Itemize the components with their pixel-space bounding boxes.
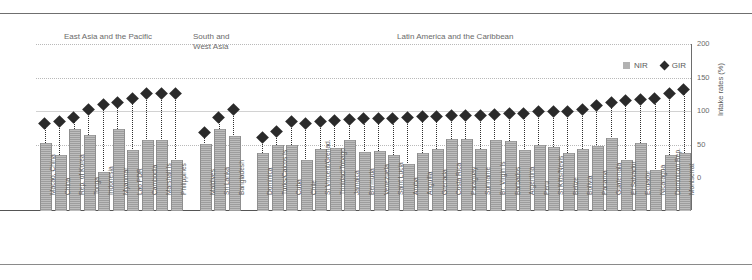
gir-diamond-marker[interactable] [140,88,153,101]
y-tick-50: 50 [697,141,705,149]
x-axis-tick-label: Lao PDR [136,168,143,195]
y-tick-150: 150 [697,74,710,82]
gir-diamond-marker[interactable] [634,93,647,106]
y-tick-100: 100 [697,107,710,115]
x-axis-tick-label: Dominica [266,168,273,195]
gir-diamond-marker[interactable] [459,109,472,122]
gir-diamond-marker[interactable] [328,114,341,127]
gir-diamond-marker[interactable] [126,92,139,105]
x-axis-tick-label: Aruba [412,177,419,195]
gir-diamond-marker[interactable] [213,111,226,124]
x-axis-tick-label: St Kitts/Nevis [557,156,564,195]
x-axis-tick-label: Suriname [484,167,491,195]
gir-diamond-marker[interactable] [518,107,531,120]
gir-diamond-marker[interactable] [590,99,603,112]
x-axis-tick-label: Maldives [209,169,216,195]
x-axis-tick-label: Costa Rica [455,163,462,195]
y-tick-200: 200 [697,40,710,48]
gir-diamond-marker[interactable] [285,115,298,128]
x-axis-tick-label: El Salvador [630,161,637,195]
gir-diamond-marker[interactable] [343,113,356,126]
gir-diamond-marker[interactable] [358,112,371,125]
gir-diamond-marker[interactable] [619,94,632,107]
y-axis-label: Intake rates (%) [716,63,725,116]
x-axis-tick-label: Jamaica [353,170,360,195]
gir-diamond-marker[interactable] [68,111,81,124]
gir-diamond-marker[interactable] [169,88,182,101]
x-axis-tick-label: Br. Virgin Is [499,161,506,195]
gir-diamond-marker[interactable] [430,110,443,123]
x-axis-tick-label: Guatemala [615,163,622,195]
x-axis-tick-label: Tonga [93,177,100,195]
x-axis-tick-label: Philippines [180,163,187,195]
x-axis-tick-label: Cambodia [151,165,158,195]
x-axis-tick-label: Montserrat [688,163,695,195]
x-axis-tick-label: Anguilla [426,172,433,195]
x-axis-tick-label: Belize [572,177,579,195]
gir-diamond-marker[interactable] [198,126,211,139]
x-axis-tick-label: Sri Lanka [223,167,230,195]
chart-page: East Asia and the Pacific South and West… [0,0,752,280]
gir-diamond-marker[interactable] [488,108,501,121]
x-axis-tick-label: Panama [601,170,608,195]
gir-diamond-marker[interactable] [53,115,66,128]
x-axis-labels: Macao, ChinaChinaRep. of KoreaTongaIndon… [36,195,691,280]
gir-diamond-marker[interactable] [387,112,400,125]
x-axis-tick-label: Cuba [295,179,302,195]
x-axis-tick-label: Rep. of Korea [78,154,85,195]
gir-diamond-marker[interactable] [227,103,240,116]
gir-diamond-marker[interactable] [111,96,124,109]
gir-diamond-marker[interactable] [416,110,429,123]
gir-diamond-marker[interactable] [401,111,414,124]
x-axis-tick-label: Macao, China [49,154,56,195]
gir-diamond-marker[interactable] [576,103,589,116]
x-axis-tick-label: Bolivia [586,176,593,195]
gir-diamond-marker[interactable] [503,107,516,120]
x-axis-tick-label: Venezuela [383,164,390,195]
x-axis-tick-label: Chile [310,180,317,195]
gir-diamond-marker[interactable] [256,132,269,145]
gir-diamond-marker[interactable] [649,92,662,105]
gir-diamond-marker[interactable] [155,88,168,101]
x-axis-tick-label: Peru [543,181,550,195]
x-axis-tick-label: Marshall Is [165,163,172,195]
x-axis-tick-label: China [64,178,71,195]
group-header-latin-america-caribbean: Latin America and the Caribbean [397,32,514,42]
gir-diamond-marker[interactable] [270,125,283,138]
gir-diamond-marker[interactable] [372,112,385,125]
gir-diamond-marker[interactable] [605,96,618,109]
x-axis-tick-label: Nicaragua [659,165,666,195]
x-axis-tick-label: Bermuda [368,168,375,195]
group-header-east-asia-pacific: East Asia and the Pacific [64,32,152,42]
x-axis-tick-label: Barbados [514,167,521,195]
x-axis-tick-label: Trinidad/Tobago [339,148,346,195]
gir-diamond-marker[interactable] [474,109,487,122]
x-axis-tick-label: Argentina [528,167,535,195]
x-axis-tick-label: Paraguay [470,167,477,195]
gir-diamond-marker[interactable] [663,88,676,101]
x-axis-tick-label: Saint Lucia [397,162,404,195]
gir-diamond-marker[interactable] [82,103,95,116]
x-axis-tick-label: Bangladesh [238,160,245,195]
gir-diamond-marker[interactable] [547,105,560,118]
x-axis-tick-label: Turks/Caicos Is [281,150,288,195]
x-axis-tick-label: Ecuador [644,170,651,195]
page-rule-top [0,13,752,14]
x-axis-tick-label: Grenada [441,169,448,195]
gir-diamond-marker[interactable] [39,117,52,130]
gir-diamond-marker[interactable] [532,105,545,118]
gir-diamond-marker[interactable] [561,105,574,118]
x-axis-tick-label: Myanmar [122,168,129,195]
x-axis-tick-label: Indonesia [107,166,114,195]
gir-diamond-marker[interactable] [314,115,327,128]
gir-diamond-marker[interactable] [97,98,110,111]
y-tick-0: 0 [697,174,701,182]
gir-diamond-marker[interactable] [678,83,691,96]
x-axis-tick-label: St Vincent/Grenad. [324,139,331,195]
gir-diamond-marker[interactable] [445,109,458,122]
x-axis-tick-label: Dominican Rep. [674,148,681,195]
gir-diamond-marker[interactable] [299,117,312,130]
